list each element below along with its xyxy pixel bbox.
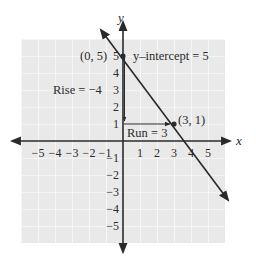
point-label-3-1: (3, 1) xyxy=(178,113,205,127)
y-axis-label: y xyxy=(116,10,124,25)
point-3-1 xyxy=(171,121,176,126)
svg-text:−5: −5 xyxy=(106,219,119,233)
svg-text:2: 2 xyxy=(113,100,119,114)
svg-text:3: 3 xyxy=(113,83,119,97)
svg-text:−3: −3 xyxy=(106,185,119,199)
x-axis-label: x xyxy=(235,133,242,148)
svg-text:−2: −2 xyxy=(106,168,119,182)
svg-text:−3: −3 xyxy=(66,146,79,160)
svg-text:5: 5 xyxy=(205,146,211,160)
svg-text:2: 2 xyxy=(154,146,160,160)
coordinate-plane: x y −5 −4 −3 −2 −1 1 2 3 4 5 1 2 3 4 5 −… xyxy=(0,0,256,266)
svg-text:−5: −5 xyxy=(32,146,45,160)
point-label-0-5: (0, 5) xyxy=(80,49,107,63)
svg-text:3: 3 xyxy=(171,146,177,160)
run-label: Run = 3 xyxy=(127,126,167,140)
point-0-5 xyxy=(120,53,125,58)
svg-text:−4: −4 xyxy=(106,202,119,216)
svg-text:1: 1 xyxy=(137,146,143,160)
svg-text:−2: −2 xyxy=(83,146,96,160)
svg-text:−1: −1 xyxy=(106,151,119,165)
svg-text:−4: −4 xyxy=(49,146,62,160)
rise-label: Rise = −4 xyxy=(53,83,103,97)
svg-text:4: 4 xyxy=(113,66,119,80)
y-intercept-label: y–intercept = 5 xyxy=(133,49,209,63)
svg-text:1: 1 xyxy=(113,117,119,131)
